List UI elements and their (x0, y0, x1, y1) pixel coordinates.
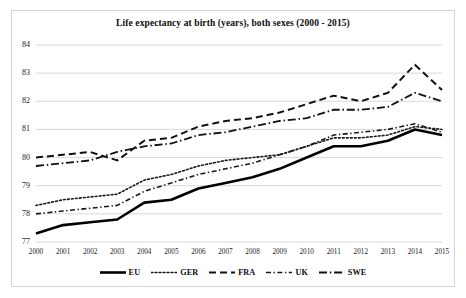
y-axis-tick-label: 82 (12, 96, 30, 105)
y-axis-tick-label: 79 (12, 181, 30, 190)
series-lines (36, 65, 442, 234)
y-axis-tick-label: 80 (12, 153, 30, 162)
x-axis-tick-label: 2013 (373, 248, 403, 256)
x-axis-tick-label: 2012 (346, 248, 376, 256)
legend-swatch-eu-icon (100, 268, 126, 277)
series-line-uk (36, 124, 442, 214)
legend-label-eu: EU (129, 268, 141, 277)
x-axis-tick-label: 2010 (292, 248, 322, 256)
series-line-ger (36, 127, 442, 206)
legend-item-swe[interactable]: SWE (319, 268, 367, 277)
x-axis-tick-label: 2007 (210, 248, 240, 256)
y-axis-tick-label: 83 (12, 68, 30, 77)
legend-label-ger: GER (180, 268, 198, 277)
y-axis-tick-label: 81 (12, 124, 30, 133)
x-axis-tick-label: 2014 (400, 248, 430, 256)
x-axis-tick-label: 2001 (48, 248, 78, 256)
legend-swatch-swe-icon (319, 268, 345, 277)
y-axis-tick-label: 78 (12, 209, 30, 218)
plot-svg (36, 45, 442, 242)
x-axis-tick-label: 2002 (75, 248, 105, 256)
x-axis-tick-label: 2011 (319, 248, 349, 256)
series-line-eu (36, 129, 442, 233)
x-axis-tick-label: 2008 (238, 248, 268, 256)
series-line-fra (36, 65, 442, 161)
x-axis-tick-label: 2006 (183, 248, 213, 256)
x-axis-tick-label: 2004 (129, 248, 159, 256)
legend-item-fra[interactable]: FRA (209, 268, 255, 277)
y-axis-tick-label: 84 (12, 40, 30, 49)
chart-title: Life expectancy at birth (years), both s… (11, 18, 455, 28)
legend-item-uk[interactable]: UK (266, 268, 307, 277)
chart-figure: Life expectancy at birth (years), both s… (0, 0, 466, 298)
chart-legend: EUGERFRAUKSWE (11, 268, 455, 277)
legend-item-ger[interactable]: GER (151, 268, 198, 277)
y-axis-tick-label: 77 (12, 237, 30, 246)
x-axis-tick-label: 2015 (427, 248, 457, 256)
x-axis-tick-label: 2003 (102, 248, 132, 256)
x-axis-tick-label: 2005 (156, 248, 186, 256)
legend-swatch-fra-icon (209, 268, 235, 277)
legend-swatch-uk-icon (266, 268, 292, 277)
legend-swatch-ger-icon (151, 268, 177, 277)
legend-label-swe: SWE (348, 268, 367, 277)
plot-area (36, 45, 442, 242)
x-axis-tick-label: 2000 (21, 248, 51, 256)
legend-label-uk: UK (295, 268, 307, 277)
legend-item-eu[interactable]: EU (100, 268, 141, 277)
x-axis-tick-label: 2009 (265, 248, 295, 256)
legend-label-fra: FRA (238, 268, 255, 277)
gridlines (36, 45, 442, 242)
